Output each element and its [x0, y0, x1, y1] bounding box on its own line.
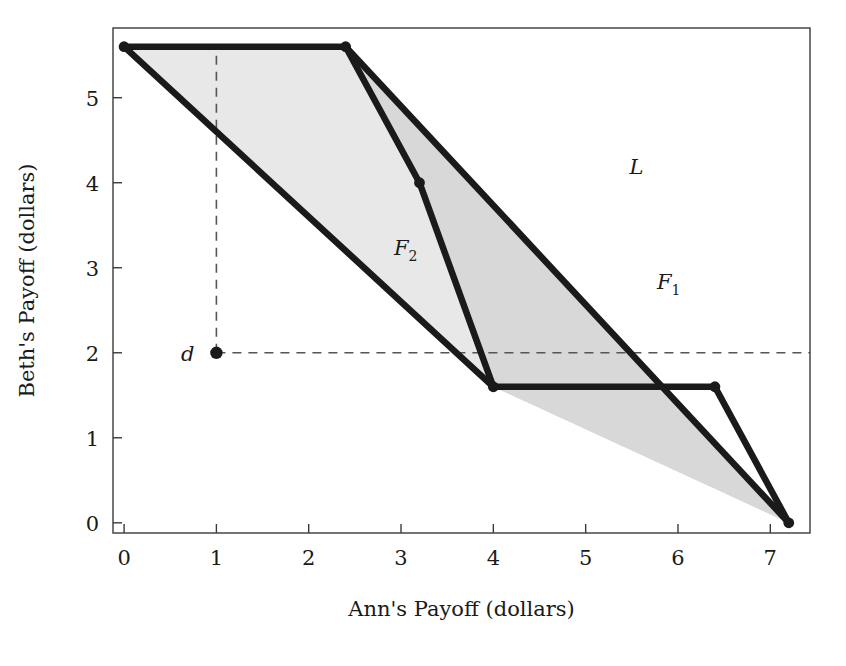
x-tick-label: 5: [579, 546, 592, 570]
x-tick-label: 7: [764, 546, 777, 570]
y-tick-label: 1: [86, 427, 99, 451]
x-tick-label: 3: [394, 546, 407, 570]
y-tick-label: 4: [86, 172, 99, 196]
marker-vertex-6.4-1.6: [710, 381, 721, 392]
x-axis-title: Ann's Payoff (dollars): [347, 597, 575, 621]
segment-label-L: L: [628, 155, 643, 179]
x-tick-label: 4: [487, 546, 500, 570]
chart-figure: 01234567012345dF2F1LAnn's Payoff (dollar…: [0, 0, 846, 666]
marker-vertex-0-5.6: [119, 41, 130, 52]
x-tick-label: 0: [117, 546, 130, 570]
payoff-bargaining-chart: 01234567012345dF2F1LAnn's Payoff (dollar…: [0, 0, 846, 666]
y-tick-label: 3: [86, 257, 99, 281]
marker-vertex-3.2-4.0: [414, 177, 425, 188]
x-tick-label: 6: [671, 546, 684, 570]
marker-vertex-7.2-0.0: [783, 517, 794, 528]
x-tick-label: 1: [210, 546, 223, 570]
y-tick-label: 2: [86, 342, 99, 366]
marker-vertex-4.0-1.6: [488, 381, 499, 392]
y-axis-title: Beth's Payoff (dollars): [15, 163, 39, 397]
y-tick-label: 0: [86, 512, 99, 536]
y-tick-label: 5: [86, 87, 99, 111]
disagreement-point-marker: [210, 347, 222, 359]
x-tick-label: 2: [302, 546, 315, 570]
region-label-F_1: F1: [656, 270, 681, 298]
disagreement-point-label: d: [181, 342, 194, 366]
marker-vertex-2.4-5.6: [340, 41, 351, 52]
